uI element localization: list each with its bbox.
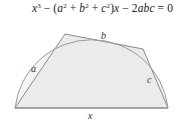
label-b: b [101,30,106,41]
label-x: x [87,110,93,121]
inscribed-quadrilateral-diagram: a b c x [0,0,181,127]
label-c: c [147,74,152,85]
label-a: a [31,63,36,74]
